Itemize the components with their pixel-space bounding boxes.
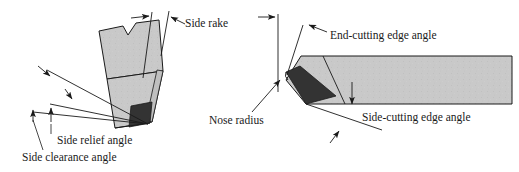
nose-radius-marks xyxy=(252,14,280,112)
side-rake-arrow-left xyxy=(131,16,149,18)
figure-canvas: Side rake Side relief angle Side clearan… xyxy=(0,0,519,172)
label-side-clearance-angle: Side clearance angle xyxy=(22,152,117,164)
right-tool-body-group xyxy=(285,56,512,104)
label-end-cutting-edge-angle: End-cutting edge angle xyxy=(330,30,437,42)
end-cutting-edge-leader-line xyxy=(309,25,327,32)
side-rake-angle-line xyxy=(161,11,169,56)
side-rake-leader-line xyxy=(171,17,185,24)
label-side-relief-angle: Side relief angle xyxy=(57,135,132,147)
label-side-cutting-edge-angle: Side-cutting edge angle xyxy=(362,112,471,124)
side-cutting-edge-arrow-up xyxy=(330,131,339,143)
label-side-rake: Side rake xyxy=(185,18,228,30)
left-tool-body-group xyxy=(99,20,163,128)
side-relief-arrow-middle xyxy=(65,89,72,99)
left-tool-upper-block xyxy=(99,20,163,79)
nose-radius-leader-line xyxy=(252,80,280,112)
label-nose-radius: Nose radius xyxy=(209,115,264,127)
side-clearance-leader-line xyxy=(33,120,43,150)
